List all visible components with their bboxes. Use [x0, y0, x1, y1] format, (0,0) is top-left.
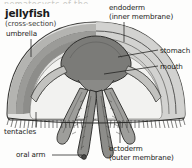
- oral-arm-tip: [82, 155, 87, 160]
- figure-title: jellyfish: [5, 8, 50, 19]
- label-umbrella: umbrella: [6, 30, 37, 38]
- label-endoderm-subtext: (inner membrane): [109, 13, 173, 21]
- label-endoderm: endoderm: [109, 4, 145, 12]
- label-ectoderm: ectoderm: [109, 145, 143, 153]
- figure-subtitle: (cross-section): [5, 20, 56, 28]
- label-mouth: mouth: [160, 63, 183, 71]
- label-oral-arm: oral arm: [16, 151, 45, 159]
- label-ectoderm-subtext: (outer membrane): [109, 154, 174, 162]
- label-tentacles: tentacles: [4, 128, 36, 136]
- label-stomach: stomach: [160, 47, 190, 55]
- cut-off-header-remnant: nematocysts of the: [4, 0, 124, 4]
